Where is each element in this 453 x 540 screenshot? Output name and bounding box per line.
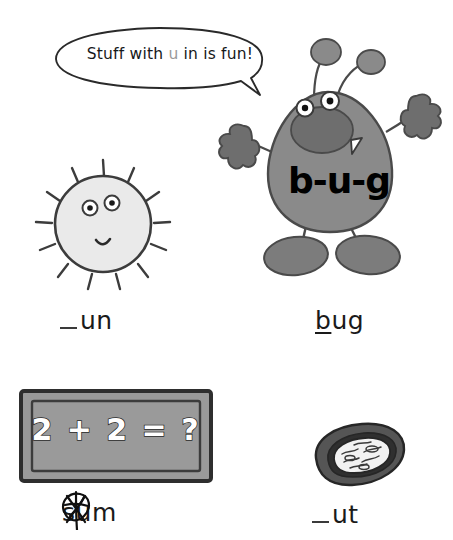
blackboard-equation: 2 + 2 = ? [18,412,214,447]
bug-antenna-ball-left [311,39,341,65]
answer-filled-bug[interactable]: b [315,306,331,335]
bug-pupil-right [327,98,334,105]
bug-foot-left [262,234,330,278]
worksheet-page: Stuff with u in is fun! [0,0,453,540]
bug-hand-left [219,124,259,168]
sun-illustration [28,152,178,302]
word-ending-nut: ut [332,500,359,529]
bug-body-word: b-u-g [288,160,390,201]
blackboard-illustration: 2 + 2 = ? [18,388,214,484]
word-label-bug: bug [315,306,364,335]
answer-blank-nut[interactable] [312,507,329,523]
word-ending-sun: un [80,306,113,335]
word-label-sun: un [60,306,113,335]
sun-pupil-right [109,200,115,206]
bug-antenna-ball-right [357,50,385,74]
word-ending-bug: ug [331,306,364,335]
bubble-highlight-letter: u [168,45,178,63]
word-label-nut: ut [312,500,359,529]
bug-illustration: b-u-g [210,34,450,296]
bug-pupil-left [302,105,308,111]
sun-pupil-left [87,205,93,211]
bug-hand-right [401,94,441,138]
word-ending-sum: um [76,498,117,527]
answer-blank-sun[interactable] [60,313,77,329]
answer-filled-sum[interactable]: s [62,498,76,527]
bug-foot-right [334,233,401,276]
bubble-text-before: Stuff with [87,45,169,63]
nut-illustration [306,418,410,490]
sun-face [55,176,151,272]
word-label-sum: s um [62,498,117,527]
